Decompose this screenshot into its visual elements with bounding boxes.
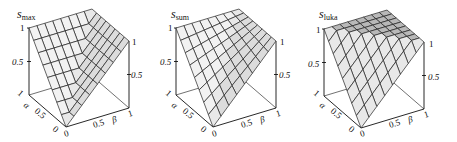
- plot-s-sum: ssum 1 0.5 1 0.5 1 α 0.5 0 0 0.5 β 1: [160, 7, 291, 139]
- beta-tick-0: 0: [211, 128, 219, 139]
- plot-s-max: smax 1 0.5 1 0.5 1 α 0.5 0 0 0.5 β 1: [12, 7, 143, 139]
- beta-axis-label: β: [110, 114, 119, 125]
- beta-axis-label: β: [258, 114, 267, 125]
- alpha-tick-0: 0: [51, 124, 61, 135]
- beta-tick-0: 0: [359, 128, 367, 139]
- plot-title: ssum: [171, 7, 190, 22]
- z-tick-1: 1: [20, 23, 25, 33]
- z-tick-0.5: 0.5: [160, 57, 172, 67]
- surface-plots-figure: smax 1 0.5 1 0.5 1 α 0.5 0 0 0.5 β 1 ssu…: [0, 0, 457, 142]
- z-tick-1: 1: [316, 25, 321, 35]
- alpha-tick-1: 1: [164, 88, 174, 99]
- alpha-tick-0: 0: [199, 124, 209, 135]
- beta-tick-0.5: 0.5: [388, 117, 402, 130]
- plot-title: sluka: [319, 7, 338, 22]
- alpha-axis-label: α: [22, 100, 32, 111]
- alpha-tick-1: 1: [312, 88, 322, 99]
- z-tick-0.5: 0.5: [12, 57, 24, 67]
- right-tick-0.5: 0.5: [131, 70, 143, 80]
- plot-s-luka: sluka 1 0.5 1 0.5 1 α 0.5 0 0 0.5 β 1: [308, 7, 440, 139]
- alpha-tick-0.5: 0.5: [33, 106, 48, 121]
- beta-tick-1: 1: [127, 108, 134, 119]
- right-tick-1: 1: [132, 37, 137, 47]
- beta-tick-0.5: 0.5: [92, 117, 106, 130]
- right-tick-0.5: 0.5: [428, 72, 440, 82]
- beta-axis-label: β: [406, 114, 415, 125]
- right-tick-1: 1: [429, 39, 434, 49]
- alpha-axis-label: α: [170, 100, 180, 111]
- alpha-tick-1: 1: [16, 88, 26, 99]
- alpha-tick-0.5: 0.5: [181, 106, 196, 121]
- right-tick-0.5: 0.5: [279, 70, 291, 80]
- z-tick-1: 1: [168, 23, 173, 33]
- alpha-tick-0.5: 0.5: [329, 106, 344, 121]
- beta-tick-0.5: 0.5: [240, 117, 254, 130]
- z-tick-0.5: 0.5: [308, 59, 320, 69]
- right-tick-1: 1: [280, 37, 285, 47]
- beta-tick-0: 0: [63, 128, 71, 139]
- alpha-tick-0: 0: [347, 124, 357, 135]
- alpha-axis-label: α: [318, 100, 328, 111]
- beta-tick-1: 1: [275, 108, 282, 119]
- plot-title: smax: [17, 7, 35, 22]
- beta-tick-1: 1: [423, 109, 430, 120]
